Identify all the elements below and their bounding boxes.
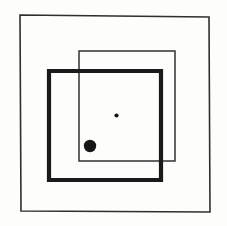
sketch-canvas: [0, 0, 227, 226]
small-filled-dot: [114, 113, 118, 117]
large-filled-dot: [84, 140, 96, 152]
sketch-svg: [0, 0, 227, 226]
canvas-background: [0, 0, 227, 226]
